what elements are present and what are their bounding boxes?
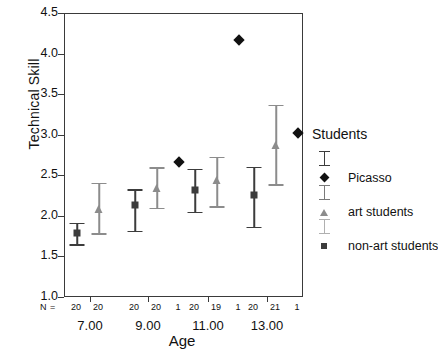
data-point-square <box>74 230 81 237</box>
error-bar-cap-lower <box>247 227 262 229</box>
legend-label: non-art students <box>348 239 438 253</box>
legend-entry: non-art students <box>312 219 430 253</box>
legend-error-bar-icon <box>319 219 330 234</box>
n-row-prefix: N = <box>40 302 56 312</box>
x-axis-title: Age <box>60 332 304 349</box>
n-value: 20 <box>85 302 111 312</box>
data-point-square <box>251 191 258 198</box>
error-bar-cap-upper <box>128 189 143 191</box>
legend-entry: Picasso <box>312 151 430 185</box>
y-tick-label: 4.0 <box>18 46 58 60</box>
data-point-triangle <box>95 205 103 213</box>
error-bar-cap-lower <box>92 233 107 235</box>
legend-error-bar-icon <box>319 151 330 166</box>
data-point-diamond <box>173 157 184 168</box>
error-bar-cap-lower <box>188 212 203 214</box>
y-tick-label: 1.5 <box>18 248 58 262</box>
data-point-triangle <box>272 141 280 149</box>
error-bar-cap-upper <box>70 223 85 225</box>
n-value: 1 <box>284 302 310 312</box>
error-bar-line <box>134 189 136 230</box>
legend: Students Picassoart studentsnon-art stud… <box>312 126 430 253</box>
legend-entry: art students <box>312 185 430 219</box>
data-point-diamond <box>233 34 244 45</box>
error-bar-cap-lower <box>70 244 85 246</box>
y-tick-label: 2.0 <box>18 208 58 222</box>
y-tick-mark <box>58 297 64 298</box>
data-point-square <box>132 202 139 209</box>
error-bar-cap-upper <box>210 157 225 159</box>
error-bar-cap-lower <box>269 184 284 186</box>
error-bar-cap-upper <box>188 169 203 171</box>
error-bar-cap-upper <box>247 167 262 169</box>
legend-error-bar-icon <box>319 185 330 200</box>
y-tick-label: 3.0 <box>18 127 58 141</box>
error-bar-cap-upper <box>269 105 284 107</box>
legend-label: art students <box>348 205 413 219</box>
legend-marker-diamond-icon <box>319 172 330 183</box>
legend-title: Students <box>312 126 430 142</box>
data-point-triangle <box>213 176 221 184</box>
error-bar-cap-lower <box>128 231 143 233</box>
error-bar-cap-lower <box>150 208 165 210</box>
legend-marker-triangle-icon <box>319 206 330 217</box>
legend-marker-square-icon <box>319 240 330 251</box>
legend-label: Picasso <box>348 171 392 185</box>
data-point-triangle <box>153 184 161 192</box>
legend-entries: Picassoart studentsnon-art students <box>312 151 430 253</box>
plot-area <box>64 13 303 297</box>
error-bar-cap-upper <box>150 167 165 169</box>
y-tick-label: 1.0 <box>18 289 58 303</box>
data-point-square <box>192 187 199 194</box>
error-bar-cap-lower <box>210 206 225 208</box>
y-tick-label: 3.5 <box>18 86 58 100</box>
y-tick-label: 4.5 <box>18 5 58 19</box>
x-group-label: 13.00 <box>232 318 302 333</box>
y-tick-label: 2.5 <box>18 167 58 181</box>
data-point-diamond <box>292 128 303 139</box>
error-bar-cap-upper <box>92 183 107 185</box>
